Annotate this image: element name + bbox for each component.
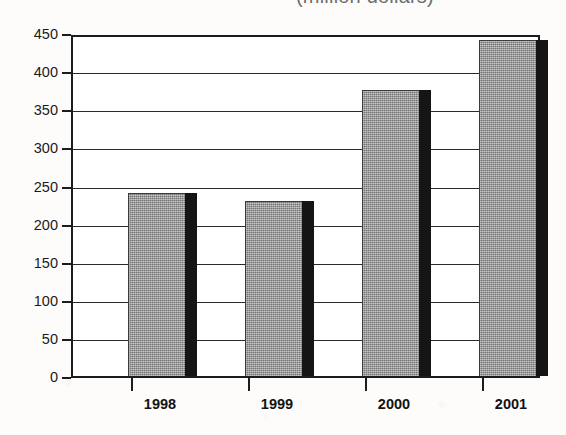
- gridline-350: [73, 111, 538, 112]
- bar-face-1999: [245, 201, 302, 376]
- bar-2001: [479, 40, 548, 376]
- y-axis-tick: [62, 301, 71, 303]
- x-axis-tick: [248, 378, 250, 391]
- y-axis-label: 50: [4, 331, 58, 347]
- x-axis-tick: [131, 378, 133, 391]
- bar-shadow-2001: [536, 40, 548, 376]
- bar-chart: 450 400 350 300 250 200 150 100 50 0: [0, 0, 566, 435]
- bar-face-2000: [362, 90, 419, 376]
- x-axis-label-2001: 2001: [471, 396, 551, 412]
- y-axis-label: 200: [4, 217, 58, 233]
- plot-area: [71, 35, 540, 378]
- y-axis-tick: [62, 34, 71, 36]
- y-axis-label: 450: [4, 26, 58, 42]
- bar-1998: [128, 193, 197, 376]
- bar-face-2001: [479, 40, 536, 376]
- y-axis-tick: [62, 110, 71, 112]
- bar-shadow-1998: [185, 193, 197, 376]
- y-axis-tick: [62, 377, 71, 379]
- bar-face-1998: [128, 193, 185, 376]
- y-axis-label: 150: [4, 255, 58, 271]
- x-axis-label-1999: 1999: [237, 396, 317, 412]
- y-axis-tick: [62, 148, 71, 150]
- y-axis-label: 300: [4, 140, 58, 156]
- x-axis-label-2000: 2000: [354, 396, 434, 412]
- bar-shadow-2000: [419, 90, 431, 376]
- y-axis-tick: [62, 339, 71, 341]
- y-axis-label: 100: [4, 293, 58, 309]
- x-axis-label-1998: 1998: [120, 396, 200, 412]
- y-axis-tick: [62, 187, 71, 189]
- y-axis-label: 0: [4, 369, 58, 385]
- y-axis-tick: [62, 72, 71, 74]
- gridline-300: [73, 149, 538, 150]
- gridline-400: [73, 73, 538, 74]
- bar-1999: [245, 201, 314, 376]
- y-axis-labels: 450 400 350 300 250 200 150 100 50 0: [0, 0, 58, 435]
- x-axis-tick: [365, 378, 367, 391]
- y-axis-label: 250: [4, 179, 58, 195]
- y-axis-label: 350: [4, 102, 58, 118]
- bar-shadow-1999: [302, 201, 314, 376]
- y-axis-tick: [62, 225, 71, 227]
- x-axis-tick: [482, 378, 484, 391]
- y-axis-label: 400: [4, 64, 58, 80]
- bar-2000: [362, 90, 431, 376]
- gridline-250: [73, 188, 538, 189]
- y-axis-tick: [62, 263, 71, 265]
